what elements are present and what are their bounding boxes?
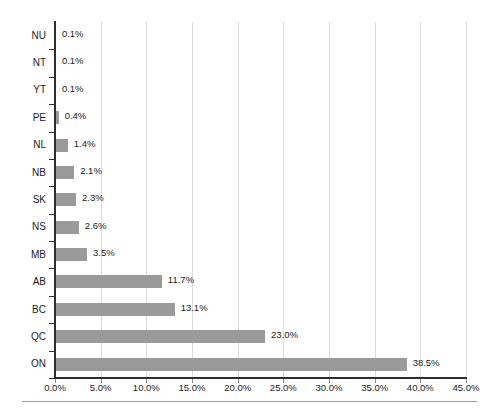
- category-label-ab: AB: [0, 276, 46, 288]
- bar: [55, 330, 265, 343]
- bar: [55, 275, 162, 288]
- bar-value-label: 11.7%: [168, 273, 194, 286]
- bar-value-label: 38.5%: [413, 356, 440, 369]
- footer-rule: [22, 401, 477, 402]
- category-label-nt: NT: [0, 57, 46, 69]
- category-label-bc: BC: [0, 304, 46, 316]
- bar-value-label: 0.1%: [62, 27, 84, 40]
- bar: [55, 248, 87, 261]
- bar: [55, 166, 74, 179]
- y-axis-tick: [49, 132, 55, 133]
- bar-row: 11.7%: [55, 268, 466, 295]
- bar: [55, 193, 76, 206]
- y-axis-tick: [49, 49, 55, 50]
- y-axis-tick: [49, 378, 55, 379]
- bar-row: 0.1%: [55, 77, 466, 104]
- category-label-yt: YT: [0, 84, 46, 96]
- bar-row: 0.1%: [55, 22, 466, 49]
- category-label-nu: NU: [0, 30, 46, 42]
- gridline: [466, 22, 467, 378]
- category-label-ns: NS: [0, 221, 46, 233]
- category-label-pe: PE: [0, 112, 46, 124]
- x-axis-tick-label: 25.0%: [259, 382, 307, 394]
- y-axis-tick: [49, 77, 55, 78]
- plot-area: 0.1%0.1%0.1%0.4%1.4%2.1%2.3%2.6%3.5%11.7…: [55, 22, 466, 378]
- bar-row: 38.5%: [55, 351, 466, 378]
- bar: [55, 139, 68, 152]
- x-axis-tick-label: 35.0%: [351, 382, 399, 394]
- bar-row: 0.4%: [55, 104, 466, 131]
- x-axis-tick-label: 5.0%: [77, 382, 125, 394]
- x-axis-tick-label: 40.0%: [396, 382, 444, 394]
- bar-value-label: 23.0%: [271, 328, 298, 341]
- y-axis-tick: [49, 241, 55, 242]
- bar-value-label: 1.4%: [74, 137, 96, 150]
- category-label-mb: MB: [0, 249, 46, 261]
- bar-row: 3.5%: [55, 241, 466, 268]
- bar: [55, 303, 175, 316]
- bar-row: 2.3%: [55, 186, 466, 213]
- bar-value-label: 2.3%: [82, 191, 104, 204]
- bar: [55, 358, 407, 371]
- bar: [55, 221, 79, 234]
- bar-row: 1.4%: [55, 132, 466, 159]
- bar-row: 0.1%: [55, 49, 466, 76]
- y-axis-line: [54, 21, 56, 379]
- x-axis-tick-label: 0.0%: [31, 382, 79, 394]
- category-label-sk: SK: [0, 194, 46, 206]
- category-label-nb: NB: [0, 167, 46, 179]
- bar-value-label: 2.1%: [80, 164, 102, 177]
- bar-row: 2.1%: [55, 159, 466, 186]
- x-axis-tick-label: 20.0%: [214, 382, 262, 394]
- bar-value-label: 0.1%: [62, 54, 84, 67]
- bar-value-label: 3.5%: [93, 246, 115, 259]
- x-axis-tick-label: 15.0%: [168, 382, 216, 394]
- x-axis-tick-label: 45.0%: [442, 382, 490, 394]
- bar-value-label: 13.1%: [181, 301, 208, 314]
- bar-value-label: 0.4%: [65, 109, 87, 122]
- bar-row: 2.6%: [55, 214, 466, 241]
- x-axis-tick-label: 30.0%: [305, 382, 353, 394]
- y-axis-tick: [49, 186, 55, 187]
- bar-value-label: 2.6%: [85, 219, 107, 232]
- bar-chart-figure: 0.1%0.1%0.1%0.4%1.4%2.1%2.3%2.6%3.5%11.7…: [0, 0, 501, 419]
- category-label-on: ON: [0, 358, 46, 370]
- bar-row: 13.1%: [55, 296, 466, 323]
- y-axis-tick: [49, 214, 55, 215]
- y-axis-tick: [49, 351, 55, 352]
- category-label-nl: NL: [0, 139, 46, 151]
- x-axis-line: [54, 377, 467, 379]
- y-axis-tick: [49, 323, 55, 324]
- category-label-qc: QC: [0, 331, 46, 343]
- y-axis-tick: [49, 268, 55, 269]
- bar-value-label: 0.1%: [62, 82, 84, 95]
- y-axis-tick: [49, 296, 55, 297]
- y-axis-tick: [49, 104, 55, 105]
- bar-row: 23.0%: [55, 323, 466, 350]
- y-axis-tick: [49, 159, 55, 160]
- x-axis-tick-label: 10.0%: [122, 382, 170, 394]
